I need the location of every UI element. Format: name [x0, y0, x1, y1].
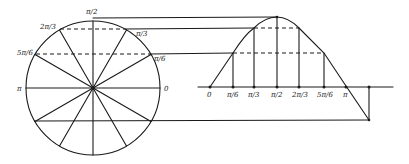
label-circle-2pi-3: 2π/3	[39, 23, 56, 31]
tick-label-pi-3: π/3	[247, 91, 260, 99]
projection-line-pi-3	[126, 28, 254, 29]
circle-center-point	[91, 86, 95, 90]
label-circle-pi: π	[16, 85, 22, 93]
projection-lines	[35, 17, 369, 121]
tick-point-pi-3	[253, 86, 256, 89]
tick-point-pi-6	[232, 86, 235, 89]
tick-point-2pi-3	[298, 86, 301, 89]
curve-peak-point	[276, 16, 279, 19]
tick-label-5pi-6: 5π/6	[317, 91, 333, 99]
projection-line-lower	[35, 120, 369, 121]
curve-low-point	[368, 119, 371, 122]
ordinate-lines	[233, 17, 369, 120]
tick-label-pi: π	[342, 91, 348, 99]
tick-label-pi-6: π/6	[226, 91, 239, 99]
projection-line-half-pi	[93, 17, 277, 18]
label-circle-5pi-6: 5π/6	[17, 49, 33, 57]
sine-unit-circle-diagram: π/2 2π/3 π/3 5π/6 π/6 π 0	[0, 0, 409, 164]
tick-label-half-pi: π/2	[270, 91, 283, 99]
label-circle-zero: 0	[164, 85, 169, 93]
label-circle-pi-3: π/3	[135, 30, 148, 38]
projection-line-pi-6	[150, 53, 233, 54]
label-circle-pi-6: π/6	[153, 55, 166, 63]
tick-label-0: 0	[207, 91, 212, 99]
tick-label-2pi-3: 2π/3	[291, 91, 308, 99]
tick-point-5pi-6	[323, 86, 326, 89]
sine-curve	[210, 17, 369, 120]
tick-point-0	[209, 86, 212, 89]
axis-tick-labels: 0 π/6 π/3 π/2 2π/3 5π/6 π	[207, 91, 348, 99]
unit-circle: π/2 2π/3 π/3 5π/6 π/6 π 0	[16, 8, 169, 155]
label-circle-half-pi: π/2	[85, 8, 98, 16]
tick-point-7pi-6	[368, 86, 371, 89]
tick-point-half-pi	[276, 86, 279, 89]
tick-point-pi	[345, 86, 348, 89]
